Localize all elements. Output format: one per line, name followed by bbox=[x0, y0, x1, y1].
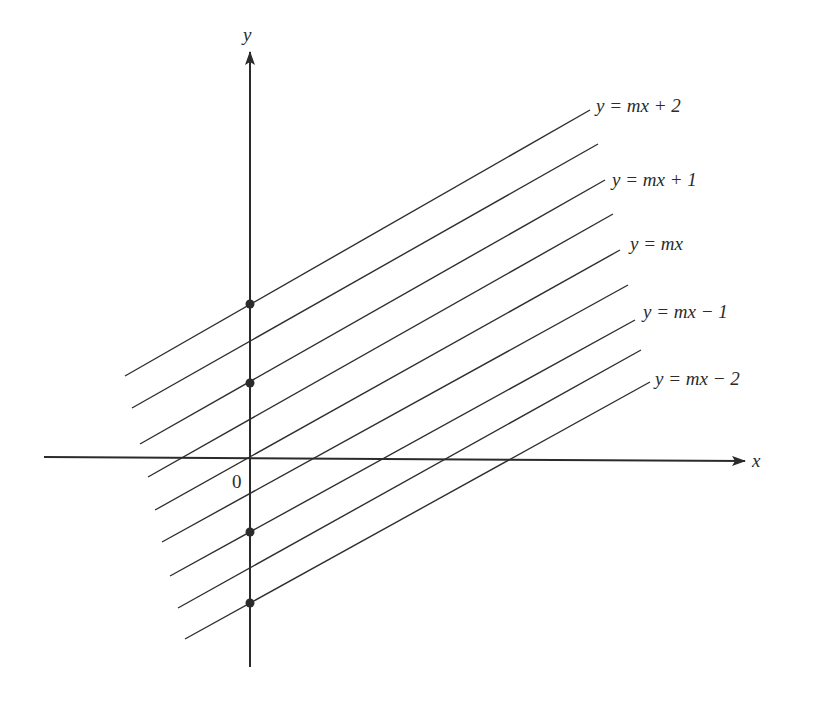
intercept-dot-minus-1 bbox=[246, 528, 255, 537]
line-mx-plus-1-5 bbox=[132, 144, 598, 408]
intercept-dot-plus-2 bbox=[246, 300, 255, 309]
y-axis-label: y bbox=[241, 24, 252, 45]
label-mx: y = mx bbox=[628, 233, 683, 254]
axes bbox=[44, 52, 745, 667]
line-mx bbox=[155, 250, 620, 510]
label-mx-plus-2: y = mx + 2 bbox=[594, 95, 681, 116]
line-mx-minus-1 bbox=[170, 320, 635, 576]
line-mx-plus-0-5 bbox=[148, 214, 613, 477]
parallel-lines bbox=[125, 110, 650, 639]
label-mx-minus-1: y = mx − 1 bbox=[641, 301, 728, 322]
line-mx-minus-0-5 bbox=[162, 285, 628, 542]
x-axis-label: x bbox=[751, 450, 761, 471]
parallel-lines-diagram: y x 0 y = mx + 2 y = mx + 1 y = mx y = m… bbox=[0, 0, 813, 707]
origin-label: 0 bbox=[232, 471, 242, 492]
intercept-dot-minus-2 bbox=[246, 599, 255, 608]
line-mx-minus-2 bbox=[185, 382, 650, 639]
line-mx-plus-1 bbox=[140, 180, 605, 444]
x-axis bbox=[44, 457, 745, 461]
diagram-svg: y x 0 y = mx + 2 y = mx + 1 y = mx y = m… bbox=[0, 0, 813, 707]
line-mx-minus-1-5 bbox=[178, 350, 641, 608]
intercept-dot-plus-1 bbox=[246, 379, 255, 388]
label-mx-plus-1: y = mx + 1 bbox=[610, 169, 697, 190]
line-mx-plus-2 bbox=[125, 110, 590, 376]
label-mx-minus-2: y = mx − 2 bbox=[653, 368, 740, 389]
